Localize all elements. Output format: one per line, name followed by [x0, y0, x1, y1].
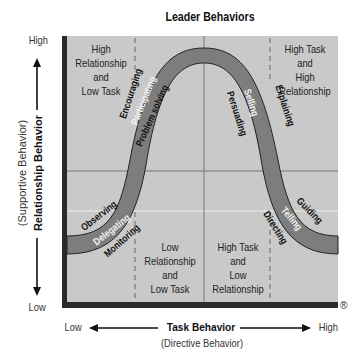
x-axis-sublabel: (Directive Behavior) — [152, 337, 252, 349]
y-axis-low-label: Low — [29, 301, 46, 313]
y-axis-high-label: High — [29, 34, 48, 46]
quadrant-top-left: High Relationship and Low Task — [73, 42, 129, 98]
quadrant-bottom-left: Low Relationship and Low Task — [141, 240, 199, 296]
quadrant-bottom-right: High Task and Low Relationship — [210, 240, 266, 296]
y-axis-label: Relationship Behavior — [32, 103, 44, 243]
x-axis-low-label: Low — [65, 321, 82, 333]
x-axis-high-label: High — [319, 321, 338, 333]
x-axis-label: Task Behavior — [165, 321, 237, 333]
y-axis-sublabel: (Supportive Behavior) — [16, 103, 28, 243]
registered-mark: ® — [340, 300, 347, 311]
